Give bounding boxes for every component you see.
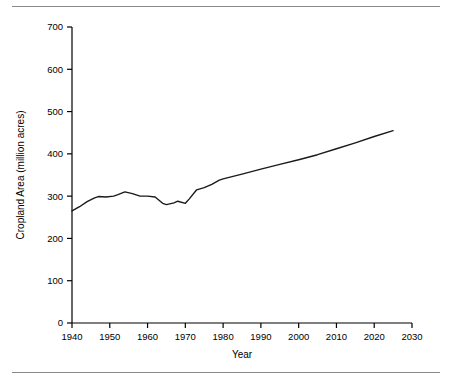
y-tick-label: 300	[47, 191, 63, 202]
x-axis-tick-labels: 1940195019601970198019902000201020202030	[61, 331, 422, 342]
x-tick-label: 2020	[364, 331, 385, 342]
x-tick-label: 2030	[401, 331, 422, 342]
x-axis-title: Year	[232, 349, 253, 360]
y-tick-label: 200	[47, 233, 63, 244]
x-tick-label: 1990	[250, 331, 271, 342]
y-axis-tick-labels: 0100200300400500600700	[47, 21, 63, 328]
y-tick-label: 500	[47, 106, 63, 117]
data-series-line	[72, 131, 393, 211]
x-tick-label: 1940	[61, 331, 82, 342]
y-axis-ticks	[67, 27, 72, 323]
x-axis-ticks	[72, 323, 412, 328]
y-tick-label: 700	[47, 21, 63, 32]
x-tick-label: 1970	[175, 331, 196, 342]
figure-container: 0100200300400500600700 19401950196019701…	[0, 0, 452, 388]
y-tick-label: 400	[47, 148, 63, 159]
x-tick-label: 2000	[288, 331, 309, 342]
y-tick-label: 100	[47, 275, 63, 286]
x-tick-label: 1980	[213, 331, 234, 342]
top-divider-rule	[12, 6, 440, 7]
y-axis-title: Cropland Area (million acres)	[15, 111, 26, 240]
x-tick-label: 2010	[326, 331, 347, 342]
x-tick-label: 1960	[137, 331, 158, 342]
y-tick-label: 600	[47, 64, 63, 75]
x-tick-label: 1950	[99, 331, 120, 342]
bottom-divider-rule	[12, 372, 440, 373]
line-chart: 0100200300400500600700 19401950196019701…	[0, 0, 452, 388]
y-tick-label: 0	[58, 317, 63, 328]
